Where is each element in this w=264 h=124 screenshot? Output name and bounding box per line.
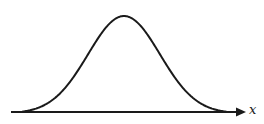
bell-curve bbox=[23, 16, 227, 112]
x-axis-arrow-icon bbox=[236, 108, 246, 117]
x-axis-label: x bbox=[249, 103, 256, 116]
bell-curve-diagram bbox=[0, 0, 264, 124]
